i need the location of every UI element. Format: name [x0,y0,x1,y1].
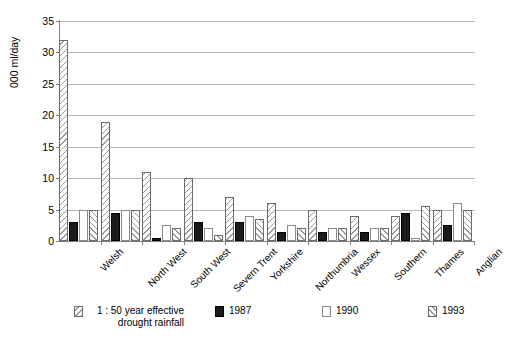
y-axis-tick-label: 10 [42,173,54,183]
x-axis-tick [184,241,185,245]
x-axis-category-label: Southern [392,246,428,282]
bar-group [101,21,140,241]
bar [287,225,296,241]
y-axis-tick-label: 0 [48,236,54,246]
x-axis-tick [308,241,309,245]
bar [433,210,442,241]
bar [162,225,171,241]
bar [194,222,203,241]
legend-swatch-icon [428,306,437,317]
bar [89,210,98,241]
legend-entry[interactable]: 1 : 50 year effective drought rainfall [74,305,184,329]
bar [370,228,379,241]
bar [267,203,276,241]
y-axis-tick-label: 35 [42,16,54,26]
y-axis-tick-label: 15 [42,142,54,152]
bar [184,178,193,241]
legend-swatch-icon [322,306,331,317]
legend-entry[interactable]: 1993 [428,305,464,317]
bar [350,216,359,241]
bar [391,216,400,241]
x-axis-category-label: Thames [432,246,465,279]
y-axis-tick-label: 20 [42,110,54,120]
y-axis-tick-label: 30 [42,47,54,57]
bar-group [142,21,181,241]
legend-swatch-icon [215,306,224,317]
bar [245,216,254,241]
bar-group [267,21,306,241]
x-axis-category-label: Welsh [98,246,125,273]
bar [111,213,120,241]
bar [318,232,327,241]
bar [443,225,452,241]
x-axis-tick [391,241,392,245]
bar [297,228,306,241]
bar [308,210,317,241]
x-axis-tick [350,241,351,245]
bar [421,206,430,241]
bar [411,238,420,241]
bar [401,213,410,241]
x-axis-tick [267,241,268,245]
legend-swatch-icon [74,306,83,317]
bar-group [59,21,98,241]
bar [360,232,369,241]
y-axis-title: 000 ml/day [8,37,20,88]
x-axis-tick [101,241,102,245]
bar-group [350,21,389,241]
bar [131,210,140,241]
bar-group [184,21,223,241]
bar [225,197,234,241]
x-axis-tick [142,241,143,245]
bar [328,228,337,241]
legend-entry[interactable]: 1990 [322,305,358,317]
bar [277,232,286,241]
bar [255,219,264,241]
x-axis-category-label: South West [188,246,232,290]
bar [172,228,181,241]
legend-entry[interactable]: 1987 [215,305,251,317]
bar [380,228,389,241]
legend-label: 1987 [229,305,251,317]
y-axis-tick-label: 25 [42,79,54,89]
bar [214,235,223,241]
plot-area: 05101520253035 [60,21,475,241]
bar [338,228,347,241]
x-axis-tick [474,241,475,245]
bar [79,210,88,241]
legend-label: 1990 [336,305,358,317]
bar [142,172,151,241]
bar-group [225,21,264,241]
bar [204,228,213,241]
bar [59,40,68,241]
x-axis-tick [433,241,434,245]
y-axis-tick-label: 5 [48,205,54,215]
bar-group [433,21,472,241]
bar-group [391,21,430,241]
legend-label: 1993 [442,305,464,317]
bar [152,238,161,241]
bar [463,210,472,241]
bar-group [308,21,347,241]
x-axis-tick [225,241,226,245]
bar [69,222,78,241]
x-axis-category-label: North West [146,246,189,289]
bar [121,210,130,241]
bar [101,122,110,241]
y-axis-tick [56,241,60,242]
legend-label: 1 : 50 year effective drought rainfall [88,305,184,329]
bar [235,222,244,241]
x-axis-category-label: Anglian [473,246,504,277]
chart-legend: 1 : 50 year effective drought rainfall19… [60,305,480,355]
bar [453,203,462,241]
